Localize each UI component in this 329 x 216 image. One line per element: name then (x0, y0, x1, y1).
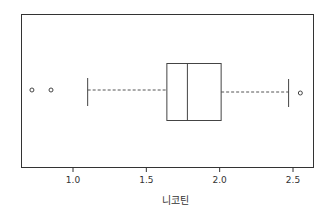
boxplot-chart: 1.01.52.02.5 니코틴 (0, 0, 329, 216)
outlier-point (298, 91, 302, 95)
x-tick-label: 2.5 (286, 175, 300, 185)
outlier-point (49, 88, 53, 92)
iqr-box (167, 64, 221, 121)
x-axis: 1.01.52.02.5 (66, 168, 300, 186)
x-tick-label: 1.5 (139, 175, 153, 185)
box-plot (30, 64, 302, 121)
x-tick-label: 1.0 (66, 175, 81, 185)
x-axis-label: 니코틴 (162, 195, 189, 206)
x-tick-label: 2.0 (213, 175, 228, 185)
outlier-point (30, 88, 34, 92)
